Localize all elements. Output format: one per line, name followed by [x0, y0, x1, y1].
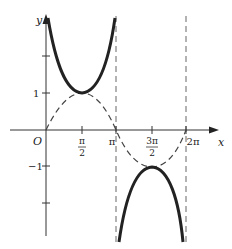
y-tick-label-1: 1 — [33, 88, 39, 99]
origin-label: O — [33, 135, 42, 148]
x-tick-2pi: 2π — [187, 136, 200, 147]
x-tick-pi-over-2-num: π — [79, 136, 85, 146]
x-tick-pi: π — [109, 136, 116, 147]
axes — [10, 20, 214, 236]
x-axis-label: x — [218, 136, 225, 149]
x-axis-arrow-icon — [209, 127, 219, 134]
y-axis-label: y — [35, 14, 43, 27]
x-tick-pi-over-2-den: 2 — [79, 148, 85, 158]
cosecant-branch-1 — [48, 18, 115, 93]
x-tick-3pi-over-2-num: 3π — [146, 136, 158, 146]
cosecant-branch-2 — [119, 167, 183, 242]
x-tick-3pi-over-2-den: 2 — [149, 148, 155, 158]
cosecant-sine-graph: y x O 1 −1 π 2 π 3π 2 2π — [0, 0, 232, 249]
y-tick-label-neg1: −1 — [28, 161, 43, 172]
